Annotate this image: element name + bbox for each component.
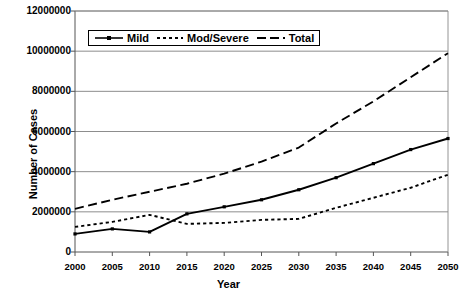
legend-swatch-solid-line-icon (94, 33, 124, 43)
series-marker-mild (297, 188, 300, 191)
series-marker-mild (148, 230, 151, 233)
series-marker-mild (446, 137, 449, 140)
x-tick-label: 2050 (437, 261, 458, 272)
x-tick-label: 2000 (64, 261, 85, 272)
series-marker-mild (185, 212, 188, 215)
legend-label-total: Total (289, 32, 314, 44)
series-marker-mild (73, 232, 76, 235)
series-marker-mild (260, 198, 263, 201)
series-line-total (75, 53, 448, 209)
x-tick-label: 2045 (400, 261, 421, 272)
series-marker-mild (409, 148, 412, 151)
x-tick-label: 2035 (326, 261, 347, 272)
x-tick-label: 2025 (251, 261, 272, 272)
x-tick-label: 2005 (102, 261, 123, 272)
x-tick-label: 2040 (363, 261, 384, 272)
x-tick-label: 2015 (176, 261, 197, 272)
legend-item-mild: Mild (94, 32, 149, 44)
series-marker-mild (223, 205, 226, 208)
x-axis-title: Year (0, 278, 457, 290)
x-tick-label: 2010 (139, 261, 160, 272)
legend-item-total: Total (256, 32, 314, 44)
legend-swatch-dashed-line-icon (256, 33, 286, 43)
x-tick-label: 2030 (288, 261, 309, 272)
legend-label-mod-severe: Mod/Severe (187, 32, 249, 44)
legend-label-mild: Mild (127, 32, 149, 44)
legend-swatch-dotted-line-icon (156, 33, 184, 43)
legend: Mild Mod/Severe Total (88, 30, 320, 46)
x-tick-label: 2020 (214, 261, 235, 272)
series-marker-mild (335, 176, 338, 179)
series-marker-mild (111, 227, 114, 230)
series-marker-mild (372, 162, 375, 165)
legend-item-mod-severe: Mod/Severe (156, 32, 249, 44)
